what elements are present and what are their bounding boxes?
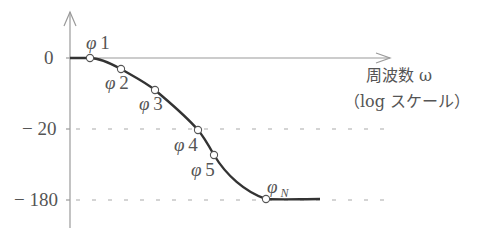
y-tick-label-minus20: − 20 [22, 119, 56, 138]
phi-symbol: φ [267, 176, 278, 197]
point-label-phi-3: φ 3 [139, 94, 163, 113]
x-axis-title-line2: （log スケール） [344, 94, 470, 110]
phi-symbol: φ [139, 93, 150, 114]
x-axis-title-line1: 周波数 ω [366, 68, 432, 84]
point-phi-1 [86, 54, 93, 61]
y-tick-label-minus180: − 180 [14, 190, 58, 209]
phi-symbol: φ [191, 159, 202, 180]
plot-canvas [0, 0, 491, 241]
phi-index: N [281, 186, 289, 200]
point-label-phi-1: φ 1 [86, 33, 110, 52]
phi-index: 4 [188, 134, 198, 155]
point-label-phi-5: φ 5 [191, 160, 215, 179]
phi-symbol: φ [174, 134, 185, 155]
phi-index: 3 [153, 93, 163, 114]
y-tick-label-0: 0 [44, 48, 54, 67]
point-phi-5 [210, 151, 217, 158]
phi-index: 5 [205, 159, 215, 180]
point-phi-4 [194, 126, 201, 133]
phi-index: 2 [119, 72, 129, 93]
phi-index: 1 [100, 32, 110, 53]
phi-symbol: φ [105, 72, 116, 93]
point-label-phi-n: φN [267, 177, 289, 196]
point-label-phi-2: φ 2 [105, 73, 129, 92]
point-label-phi-4: φ 4 [174, 135, 198, 154]
phi-symbol: φ [86, 32, 97, 53]
